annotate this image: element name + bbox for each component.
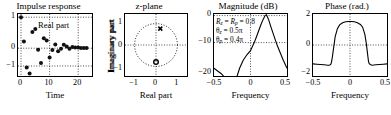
ytick-phase-2: 2: [299, 10, 310, 19]
xtick-mag-0: 0: [248, 79, 252, 88]
panel-magnitude-db: Magnitude (dB) Rz = Rp = 0.8 θz = 0.5π θ…: [192, 0, 291, 115]
pole-x-marker: [158, 27, 162, 31]
xtick-phase-05: 0.5: [380, 79, 390, 88]
xlabel-phase: Frequency: [312, 90, 388, 100]
xtick-phase-0: 0: [348, 79, 352, 88]
panel-impulse-response: Impulse response: [0, 0, 97, 115]
ytick-phase-neg2: −2: [296, 68, 310, 77]
xtick-impulse-20: 20: [73, 79, 81, 88]
xtick-zplane-1: 1: [174, 79, 178, 88]
xlabel-z-plane: Real part: [124, 90, 188, 100]
z-plane-plot: [125, 14, 187, 76]
ytick-mag-0: 0: [198, 10, 211, 19]
panel-title-z-plane: z-plane: [107, 1, 191, 11]
xtick-mag-neg05: −0.5: [207, 79, 222, 88]
ytick-impulse-0: 0: [4, 43, 15, 52]
xlabel-magnitude: Frequency: [213, 90, 288, 100]
ytick-mag-neg10: −10: [194, 37, 211, 46]
plot-area-z-plane: [124, 13, 188, 77]
panel-title-phase: Phase (rad.): [305, 1, 389, 11]
ytick-impulse-neg1: −1: [1, 61, 15, 70]
panel-z-plane: z-plane 1 0 −1 −1 0 1 I: [97, 0, 192, 115]
panel-title-impulse-response: Impulse response: [0, 1, 97, 11]
ytick-phase-0: 0: [299, 40, 310, 49]
xtick-impulse-0: 0: [18, 79, 22, 88]
panel-title-magnitude: Magnitude (dB): [206, 1, 290, 11]
xlabel-impulse-response: Time: [17, 90, 93, 100]
legend-real-part: Real part: [38, 21, 69, 30]
plot-area-phase: [312, 13, 388, 77]
xtick-zplane-neg1: −1: [129, 79, 138, 88]
annotation-theta-p: θp = 0.4π: [216, 35, 243, 46]
xtick-phase-neg05: −0.5: [306, 79, 321, 88]
ylabel-z-plane-text: Imaginary part: [107, 20, 116, 73]
ytick-mag-neg20: −20: [194, 68, 211, 77]
ytick-impulse-1: 1: [4, 12, 15, 21]
dsp-figure: Impulse response: [0, 0, 391, 115]
xtick-impulse-10: 10: [45, 79, 53, 88]
panel-phase-rad: Phase (rad.) 2 0 −2 −0.5 0 0.5 Frequency: [291, 0, 391, 115]
phase-plot: [313, 14, 387, 76]
xtick-mag-05: 0.5: [280, 79, 290, 88]
xtick-zplane-0: 0: [153, 79, 157, 88]
zero-o-marker: [154, 60, 159, 65]
